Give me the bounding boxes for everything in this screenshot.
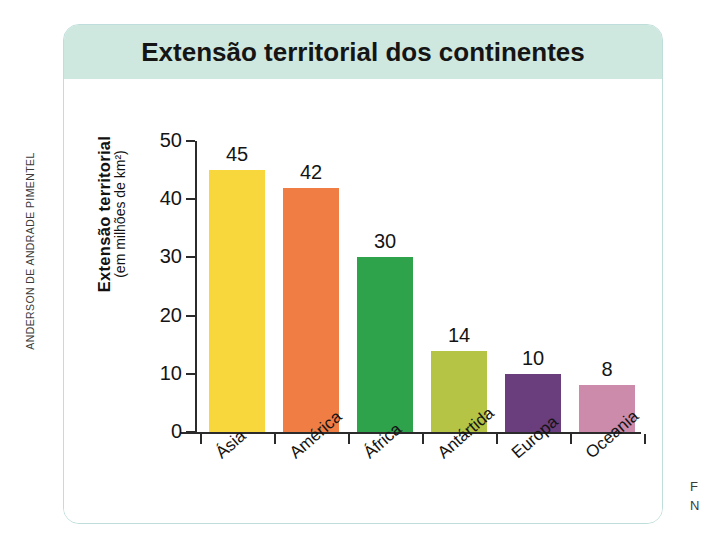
bar-value-label: 30	[357, 231, 413, 251]
edge-caption-line-2: N	[690, 497, 714, 516]
chart-title: Extensão territorial dos continentes	[141, 37, 585, 68]
bar-value-label: 45	[209, 144, 265, 164]
bar-value-label: 8	[579, 359, 635, 379]
x-axis-tick	[496, 434, 498, 444]
x-axis-line	[181, 432, 641, 434]
illustrator-credit-text: ANDERSON DE ANDRADE PIMENTEL	[24, 101, 36, 401]
bar-value-label: 14	[431, 325, 487, 345]
x-axis-tick	[422, 434, 424, 444]
bar-value-label: 42	[283, 162, 339, 182]
x-axis-tick	[348, 434, 350, 444]
chart-title-band: Extensão territorial dos continentes	[64, 25, 662, 79]
figure-panel: Extensão territorial dos continentes Ext…	[63, 24, 663, 524]
x-axis-tick	[274, 434, 276, 444]
bar	[357, 257, 413, 432]
x-axis-tick	[200, 434, 202, 444]
edge-caption-line-1: F	[690, 478, 714, 497]
bars-layer	[64, 79, 663, 432]
plot-area: Extensão territorial (em milhões de km²)…	[64, 79, 663, 523]
x-axis-tick	[570, 434, 572, 444]
x-axis-tick	[644, 434, 646, 444]
bar	[209, 170, 265, 432]
bar-value-label: 10	[505, 348, 561, 368]
illustrator-credit: ANDERSON DE ANDRADE PIMENTEL	[0, 0, 52, 558]
bar	[283, 188, 339, 432]
edge-caption: F N	[690, 478, 714, 516]
